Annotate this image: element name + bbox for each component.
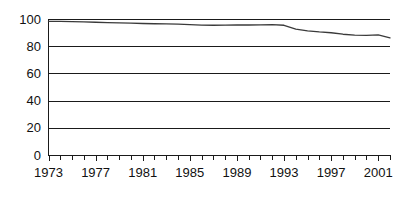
x-tick-label-1989: 1989 xyxy=(222,165,251,180)
chart-canvas: 020406080100 197319771981198519891993199… xyxy=(0,0,407,198)
line-chart: 020406080100 197319771981198519891993199… xyxy=(0,0,407,198)
y-tick-label-60: 60 xyxy=(27,66,41,81)
y-tick-label-0: 0 xyxy=(34,148,41,163)
y-tick-label-100: 100 xyxy=(19,12,41,27)
x-tick-label-1981: 1981 xyxy=(128,165,157,180)
x-tick-label-1993: 1993 xyxy=(270,165,299,180)
y-tick-label-40: 40 xyxy=(27,93,41,108)
x-tick-label-1985: 1985 xyxy=(175,165,204,180)
gridlines xyxy=(49,20,391,156)
x-tick-label-2001: 2001 xyxy=(364,165,393,180)
y-axis-tick-labels: 020406080100 xyxy=(19,12,41,163)
y-tick-label-20: 20 xyxy=(27,120,41,135)
y-tick-label-80: 80 xyxy=(27,39,41,54)
x-tick-label-1977: 1977 xyxy=(81,165,110,180)
x-tick-label-1997: 1997 xyxy=(317,165,346,180)
data-series-line xyxy=(49,21,391,37)
x-axis-tick-labels: 19731977198119851989199319972001 xyxy=(34,165,393,180)
x-tick-label-1973: 1973 xyxy=(34,165,63,180)
